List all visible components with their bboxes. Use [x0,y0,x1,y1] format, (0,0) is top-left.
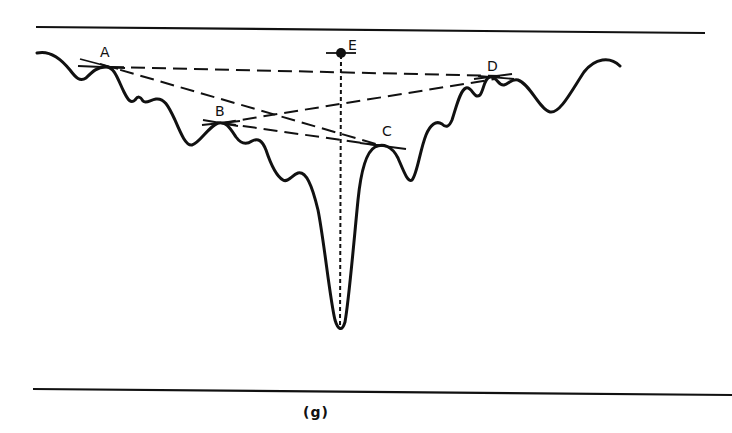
point-label-b: B [215,103,225,119]
figure-caption: (g) [303,404,329,420]
e-marker-dot [336,48,346,58]
top-boundary-line [36,27,705,33]
bottom-boundary-line [33,389,732,395]
point-label-d: D [487,58,498,74]
point-label-a: A [100,44,110,60]
point-label-e: E [348,37,357,53]
depth-dotted-line [340,55,341,328]
point-label-c: C [382,123,392,139]
surface-profile-curve [37,52,620,328]
chord-a-d [110,67,500,76]
surface-profile-diagram: A B C D E (g) [0,0,732,433]
